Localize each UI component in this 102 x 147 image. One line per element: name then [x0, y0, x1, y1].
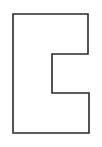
c-shape-diagram: [0, 0, 102, 147]
